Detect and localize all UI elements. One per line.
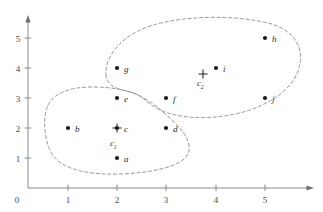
point-label-b: b	[75, 124, 80, 134]
x-tick-label-3: 3	[164, 195, 169, 205]
x-tick-label-2: 2	[115, 195, 120, 205]
point-dot-j	[263, 96, 267, 100]
point-label-g: g	[124, 64, 129, 74]
point-label-j: j	[271, 94, 275, 104]
data-point-f[interactable]: f	[164, 94, 177, 104]
x-tick-label-4: 4	[214, 195, 219, 205]
point-label-f: f	[173, 94, 177, 104]
data-point-b[interactable]: b	[66, 124, 80, 134]
data-point-e[interactable]: e	[115, 94, 128, 104]
point-dot-a	[115, 156, 119, 160]
centroid-c2[interactable]: c2	[197, 70, 208, 90]
y-tick-label-1: 1	[16, 154, 21, 164]
data-points-group: a b c d e	[66, 34, 277, 164]
centroid-label-c2: c2	[197, 78, 204, 90]
data-point-d[interactable]: d	[164, 124, 178, 134]
data-point-h[interactable]: h	[263, 34, 277, 44]
point-label-h: h	[272, 34, 277, 44]
scatter-plot-figure: 1 2 3 4 5 0 1 2 3 4 5 a	[0, 0, 323, 212]
point-label-c: c	[124, 124, 128, 134]
point-dot-b	[66, 126, 70, 130]
y-tick-label-2: 2	[16, 124, 21, 134]
data-point-i[interactable]: i	[214, 64, 226, 74]
point-label-a: a	[124, 154, 129, 164]
point-label-e: e	[124, 94, 128, 104]
centroid-label-c1: c1	[110, 138, 117, 150]
y-tick-label-4: 4	[16, 64, 21, 74]
point-dot-f	[164, 96, 168, 100]
point-dot-e	[115, 96, 119, 100]
point-label-i: i	[223, 64, 226, 74]
point-label-d: d	[173, 124, 178, 134]
y-tick-label-3: 3	[16, 94, 21, 104]
data-point-g[interactable]: g	[115, 64, 129, 74]
origin-label: 0	[15, 195, 20, 205]
point-dot-g	[115, 66, 119, 70]
point-dot-i	[214, 66, 218, 70]
data-point-a[interactable]: a	[115, 154, 129, 164]
x-axis-arrow-icon	[307, 185, 315, 190]
plot-canvas: 1 2 3 4 5 0 1 2 3 4 5 a	[0, 0, 323, 212]
x-tick-label-1: 1	[66, 195, 71, 205]
x-tick-label-5: 5	[263, 195, 268, 205]
y-tick-label-5: 5	[16, 34, 21, 44]
point-dot-d	[164, 126, 168, 130]
y-axis-arrow-icon	[25, 15, 30, 23]
point-dot-h	[263, 36, 267, 40]
axes-group: 1 2 3 4 5 0 1 2 3 4 5	[15, 15, 314, 205]
